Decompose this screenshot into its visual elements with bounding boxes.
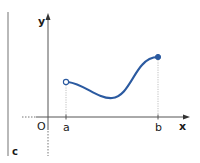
closed-endpoint-b [155,54,160,59]
function-graph: y x O a b c [0,0,200,163]
corner-label: c [12,146,18,157]
origin-label: O [37,120,46,133]
b-label: b [155,121,162,134]
a-label: a [63,121,70,134]
x-axis-label: x [179,120,186,133]
y-axis-label: y [38,15,45,28]
function-curve [68,57,158,98]
x-axis-arrow-icon [183,115,190,120]
y-axis-arrow-icon [46,13,51,20]
open-endpoint-a [63,79,68,84]
